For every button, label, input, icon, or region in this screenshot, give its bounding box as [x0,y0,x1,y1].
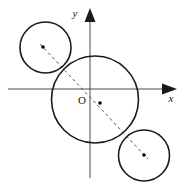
geometry-figure: y x O [0,0,181,184]
lower-right-circle-center-dot [142,153,146,157]
central-circle [52,56,139,143]
centers-collinear-line [40,44,148,159]
y-axis-label: y [72,7,78,19]
upper-left-circle-center-dot [41,45,45,49]
x-axis-label: x [168,92,174,104]
upper-left-circle [20,22,71,73]
figure-canvas: y x O [0,0,181,184]
y-axis-arrowhead [85,8,96,22]
central-circle-center-dot [98,101,102,105]
origin-label: O [78,94,86,106]
